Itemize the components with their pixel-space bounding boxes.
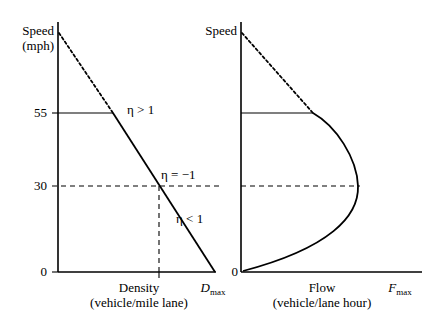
left-x-axis-label-line2: (vehicle/mile lane) [90, 296, 188, 310]
left-x-axis-max-subscript: max [210, 287, 226, 297]
right-ytick-label-0: 0 [232, 265, 239, 279]
right-x-axis-max-subscript: max [396, 287, 412, 297]
left-ytick-label-30: 30 [34, 179, 47, 193]
left-speed-density-line [113, 113, 215, 272]
traffic-flow-figure: Speed (mph) 55 30 0 η > 1 η = −1 η < 1 D… [0, 0, 430, 327]
left-y-axis-label-line2: (mph) [22, 39, 54, 53]
right-x-axis-max-label: Fmax [388, 281, 411, 296]
left-ytick-label-55: 55 [34, 106, 47, 120]
left-x-axis-max-symbol: D [201, 280, 210, 295]
left-y-axis-label-line1: Speed [22, 24, 54, 38]
annotation-eta-greater-than-one: η > 1 [127, 103, 154, 117]
right-dotted-extension [242, 33, 313, 113]
annotation-eta-equals-minus-one: η = −1 [161, 168, 195, 182]
left-ytick-label-0: 0 [41, 265, 48, 279]
right-speed-flow-curve [243, 113, 358, 271]
figure-canvas [0, 0, 430, 327]
right-x-axis-max-symbol: F [388, 280, 396, 295]
left-x-axis-label-line1: Density [119, 281, 159, 295]
right-x-axis-label-line2: (vehicle/lane hour) [273, 296, 372, 310]
right-y-axis-label: Speed [205, 24, 237, 38]
left-dotted-extension [59, 33, 113, 113]
right-x-axis-label-line1: Flow [309, 281, 336, 295]
annotation-eta-less-than-one: η < 1 [176, 212, 203, 226]
left-x-axis-max-label: Dmax [201, 281, 226, 296]
